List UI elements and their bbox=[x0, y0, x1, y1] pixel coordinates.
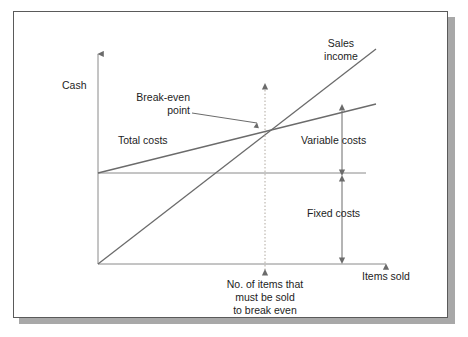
x-axis-label: Items sold bbox=[362, 270, 410, 283]
variable-costs-label: Variable costs bbox=[301, 134, 366, 147]
axis-group bbox=[98, 54, 386, 264]
sales-income-label-line1: Sales bbox=[310, 37, 372, 50]
total-costs-label: Total costs bbox=[118, 134, 168, 147]
sales-income-line bbox=[98, 49, 376, 264]
fixed-costs-label: Fixed costs bbox=[307, 207, 360, 220]
sales-income-label-line2: income bbox=[310, 50, 372, 63]
break-even-label-line1: Break-even bbox=[114, 91, 190, 104]
fixed-costs-arrow-down bbox=[339, 258, 345, 264]
break-even-caption-line1: No. of items that bbox=[195, 278, 335, 291]
fixed-costs-measure bbox=[339, 175, 345, 264]
break-even-dotted-arrow-top bbox=[262, 83, 268, 89]
break-even-pointer-arrow bbox=[192, 113, 257, 123]
y-axis-label: Cash bbox=[62, 79, 87, 92]
fixed-costs-arrow-up bbox=[339, 175, 345, 181]
break-even-dotted-arrow-bottom bbox=[262, 269, 268, 275]
chart-frame: Cash Sales income Total costs Break-even… bbox=[13, 11, 448, 318]
break-even-caption-line3: to break even bbox=[195, 304, 335, 317]
break-even-label-line2: point bbox=[114, 104, 190, 117]
variable-costs-arrow-up bbox=[339, 104, 345, 110]
break-even-caption-line2: must be sold bbox=[195, 291, 335, 304]
figure-container: Cash Sales income Total costs Break-even… bbox=[0, 0, 468, 337]
